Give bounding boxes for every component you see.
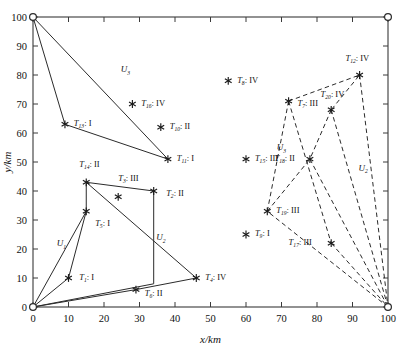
node-marker-T10 <box>157 123 164 131</box>
node-label-T18: T18: II <box>274 153 295 164</box>
node-label-T14: T14: II <box>79 159 100 170</box>
node-label-T19: T19: III <box>276 205 299 216</box>
node-marker-T15 <box>243 155 250 163</box>
node-label-T5: T5: I <box>95 218 110 229</box>
y-tick-label: 60 <box>17 128 28 139</box>
y-tick-label: 0 <box>22 302 27 313</box>
x-tick-label: 70 <box>276 313 287 324</box>
node-label-T11: T11: I <box>177 153 194 164</box>
node-label-T3: T3: III <box>118 173 139 184</box>
node-marker-T16 <box>129 100 136 108</box>
x-tick-label: 20 <box>99 313 110 324</box>
route-label-U2: U2 <box>156 232 166 243</box>
route-label-U1: U1 <box>57 238 67 249</box>
depot-bottom-right-marker <box>385 304 392 311</box>
x-axis-title: x/km <box>199 333 221 345</box>
dashed-route-cross <box>310 110 331 159</box>
node-label-T4: T4: IV <box>205 272 227 283</box>
node-label-T17: T17: III <box>289 237 312 248</box>
node-marker-T5 <box>83 207 90 215</box>
x-tick-label: 0 <box>30 313 35 324</box>
chart-figure: 0102030405060708090100010203040506070809… <box>0 0 420 350</box>
node-label-T20: T20: IV <box>321 89 346 100</box>
route-label-U3: U3 <box>121 64 131 75</box>
route-label-U2b: U2 <box>359 163 369 174</box>
y-tick-label: 50 <box>17 157 28 168</box>
x-tick-label: 10 <box>63 313 74 324</box>
x-tick-label: 90 <box>347 313 358 324</box>
y-tick-label: 80 <box>17 70 28 81</box>
dashed-route-fan3 <box>331 243 388 307</box>
x-tick-label: 60 <box>241 313 252 324</box>
dashed-route-x1 <box>267 159 310 211</box>
plot-frame <box>33 17 388 307</box>
dashed-route-fan1 <box>331 110 388 307</box>
depot-top-left-marker <box>30 14 37 21</box>
x-tick-label: 50 <box>205 313 216 324</box>
dashed-route-left <box>267 101 388 307</box>
node-label-T13: T13: I <box>74 118 92 129</box>
node-marker-T9 <box>243 231 250 239</box>
y-tick-label: 40 <box>17 186 28 197</box>
x-tick-label: 30 <box>134 313 145 324</box>
dashed-route-fan2 <box>310 159 388 307</box>
x-tick-label: 100 <box>380 313 396 324</box>
dashed-route-x2 <box>289 101 332 243</box>
node-marker-T1 <box>65 274 72 282</box>
node-label-T8: T8: IV <box>237 75 259 86</box>
route-label-U3b: U3 <box>277 142 287 153</box>
node-label-T1: T1: I <box>79 272 94 283</box>
node-label-T6: T6: II <box>145 288 163 299</box>
y-tick-label: 20 <box>17 244 28 255</box>
y-axis-title: y/km <box>1 152 13 174</box>
node-marker-T8 <box>225 77 232 85</box>
depot-top-right-marker <box>385 14 392 21</box>
node-marker-T3 <box>115 193 122 201</box>
y-tick-label: 90 <box>17 41 28 52</box>
x-tick-label: 80 <box>312 313 323 324</box>
node-marker-T13 <box>62 120 69 128</box>
y-tick-label: 100 <box>11 12 27 23</box>
solid-route-base <box>33 278 196 307</box>
x-tick-label: 40 <box>170 313 181 324</box>
solid-route-upper <box>33 17 168 159</box>
node-label-T2: T2: II <box>166 188 184 199</box>
y-tick-label: 70 <box>17 99 28 110</box>
node-label-T10: T10: II <box>170 121 191 132</box>
scatter-plot-canvas: 0102030405060708090100010203040506070809… <box>0 0 420 350</box>
node-label-T7: T7: III <box>297 98 318 109</box>
node-marker-T7 <box>285 97 292 105</box>
node-label-T12: T12: IV <box>345 53 370 64</box>
y-tick-label: 30 <box>17 215 28 226</box>
node-label-T16: T16: IV <box>141 98 166 109</box>
depot-origin-marker <box>30 304 37 311</box>
node-label-T9: T9: I <box>255 228 270 239</box>
y-tick-label: 10 <box>17 273 28 284</box>
